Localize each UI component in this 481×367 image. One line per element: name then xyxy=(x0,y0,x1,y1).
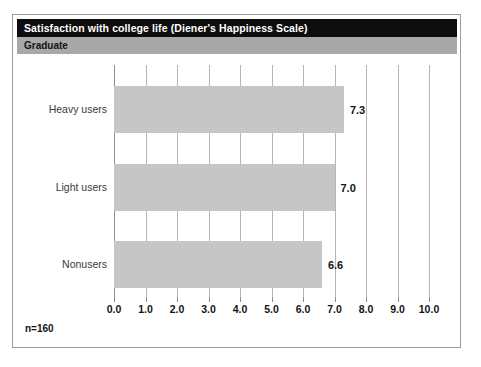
bar-heavy-users xyxy=(114,86,344,133)
plot-area: 7.37.06.6 xyxy=(114,65,429,297)
x-tick-label-4.0: 4.0 xyxy=(233,303,248,315)
bar-value-label: 7.0 xyxy=(335,182,356,194)
bar-row: 7.0 xyxy=(114,164,429,211)
x-tick-label-8.0: 8.0 xyxy=(359,303,374,315)
chart-title: Satisfaction with college life (Diener's… xyxy=(17,22,308,34)
tick-mark-6.0 xyxy=(303,297,304,302)
tick-mark-9.0 xyxy=(398,297,399,302)
tick-mark-1.0 xyxy=(146,297,147,302)
sample-size-note: n=160 xyxy=(25,323,54,334)
bar-value-label: 6.6 xyxy=(322,259,343,271)
x-tick-label-7.0: 7.0 xyxy=(327,303,342,315)
gridline-10.0 xyxy=(429,65,430,297)
x-tick-label-5.0: 5.0 xyxy=(264,303,279,315)
bar-row: 6.6 xyxy=(114,241,429,288)
x-tick-label-3.0: 3.0 xyxy=(201,303,216,315)
tick-mark-0.0 xyxy=(114,297,115,302)
tick-mark-10.0 xyxy=(429,297,430,302)
x-tick-label-6.0: 6.0 xyxy=(296,303,311,315)
tick-mark-3.0 xyxy=(209,297,210,302)
tick-mark-5.0 xyxy=(272,297,273,302)
tick-mark-4.0 xyxy=(240,297,241,302)
x-tick-label-10.0: 10.0 xyxy=(419,303,439,315)
bar-nonusers xyxy=(114,241,322,288)
category-label-nonusers: Nonusers xyxy=(62,258,107,270)
x-tick-label-9.0: 9.0 xyxy=(390,303,405,315)
bar-value-label: 7.3 xyxy=(344,104,365,116)
tick-mark-8.0 xyxy=(366,297,367,302)
x-tick-label-0.0: 0.0 xyxy=(107,303,122,315)
bar-row: 7.3 xyxy=(114,86,429,133)
chart-title-bar: Satisfaction with college life (Diener's… xyxy=(17,19,457,37)
tick-mark-2.0 xyxy=(177,297,178,302)
chart-subtitle-bar: Graduate xyxy=(17,37,457,54)
category-label-heavy-users: Heavy users xyxy=(49,103,107,115)
category-axis-labels: Heavy usersLight usersNonusers xyxy=(23,65,107,297)
bar-light-users xyxy=(114,164,335,211)
tick-mark-7.0 xyxy=(335,297,336,302)
category-label-light-users: Light users xyxy=(56,181,107,193)
x-axis-tick-labels: 0.01.02.03.04.05.06.07.08.09.010.0 xyxy=(114,303,429,319)
chart-frame: Satisfaction with college life (Diener's… xyxy=(12,14,461,348)
x-tick-label-1.0: 1.0 xyxy=(138,303,153,315)
chart-subtitle: Graduate xyxy=(17,40,68,51)
x-tick-label-2.0: 2.0 xyxy=(170,303,185,315)
